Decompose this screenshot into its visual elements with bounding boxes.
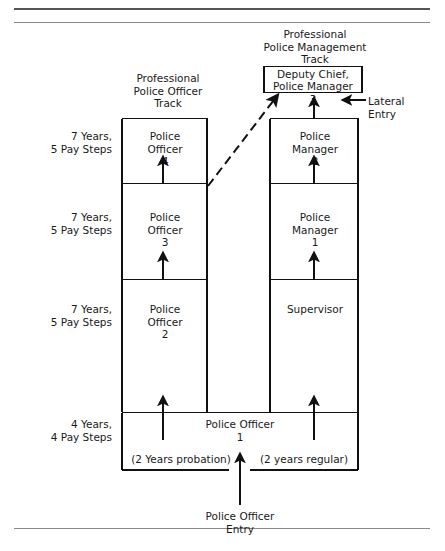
box-deputy-chief [264, 67, 362, 93]
arrow-cross-track-promotion [208, 96, 277, 186]
diagram-linework [0, 0, 445, 551]
figure-canvas: Professional Police Officer Track Profes… [0, 0, 445, 551]
